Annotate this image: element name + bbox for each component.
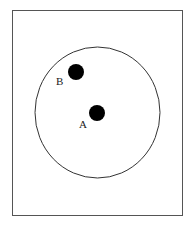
point-a-dot bbox=[89, 105, 105, 121]
point-b-label: B bbox=[56, 76, 63, 87]
point-a-label: A bbox=[79, 119, 87, 130]
diagram-canvas bbox=[0, 0, 191, 228]
point-b-dot bbox=[68, 64, 84, 80]
